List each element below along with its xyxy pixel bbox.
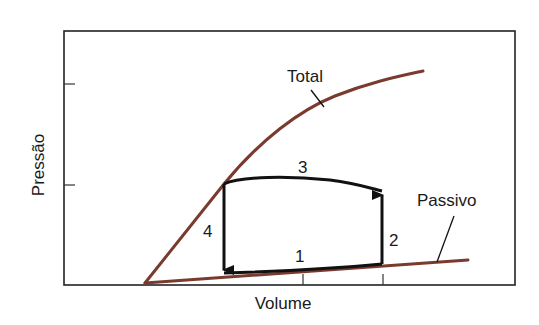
loop-phase-3-line (224, 177, 382, 191)
x-axis-label: Volume (255, 294, 312, 313)
passive-label: Passivo (417, 191, 477, 210)
phase-3-label: 3 (298, 158, 307, 177)
total-label: Total (287, 67, 323, 86)
phase-2-label: 2 (389, 231, 398, 250)
passive-curve (145, 260, 468, 283)
pressure-volume-diagram: Total Passivo 1 2 3 4 Volume Pressão (0, 0, 539, 325)
y-axis-label: Pressão (29, 134, 48, 196)
passive-leader-line (437, 216, 454, 262)
phase-4-label: 4 (203, 222, 212, 241)
phase-1-label: 1 (295, 247, 304, 266)
